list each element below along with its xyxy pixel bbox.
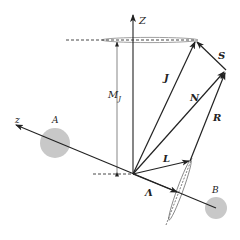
label-z-lab: Z [138, 15, 147, 26]
label-l: L [162, 153, 170, 164]
label-nucleus-a: A [51, 115, 59, 125]
label-mj: MJ [107, 89, 122, 103]
l-precession-dashed-line [166, 158, 192, 225]
label-z-internuclear: z [14, 115, 20, 125]
l-vector [133, 161, 189, 174]
label-n: N [189, 92, 200, 103]
n-vector [133, 72, 224, 174]
nucleus-a [40, 128, 70, 158]
lambda-vector [133, 174, 177, 192]
l-precession-ellipse [166, 159, 194, 221]
label-s: S [218, 50, 225, 61]
label-j: J [162, 72, 170, 83]
label-nucleus-b: B [211, 185, 219, 195]
label-lambda: Λ [144, 187, 153, 198]
angular-momentum-diagram: Z z A B J N S R L Λ MJ [0, 0, 240, 240]
label-r: R [212, 112, 221, 123]
